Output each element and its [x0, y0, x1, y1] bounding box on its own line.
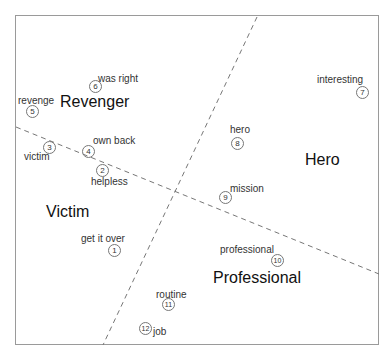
item-number-badge: 5 [26, 105, 39, 118]
divider-lines [0, 0, 392, 358]
item-number-badge: 1 [108, 244, 121, 257]
diagram-canvas: RevengerVictimHeroProfessional 1get it o… [0, 0, 392, 358]
item-word-label: mission [230, 184, 264, 194]
item-word-label: victim [24, 152, 50, 162]
item-number-badge: 10 [271, 254, 284, 267]
item-word-label: helpless [91, 177, 128, 187]
item-word-label: interesting [317, 75, 363, 85]
item-number-badge: 7 [356, 86, 369, 99]
item-word-label: professional [220, 245, 274, 255]
region-label: Professional [213, 270, 301, 286]
region-label: Hero [305, 152, 340, 168]
item-word-label: hero [230, 125, 250, 135]
item-word-label: job [153, 327, 166, 337]
item-number-badge: 4 [82, 145, 95, 158]
dashed-divider-line [16, 127, 379, 274]
region-label: Revenger [60, 94, 129, 110]
item-number-badge: 12 [139, 322, 152, 335]
item-word-label: revenge [18, 96, 54, 106]
item-word-label: own back [93, 136, 135, 146]
item-number-badge: 8 [231, 137, 244, 150]
item-word-label: get it over [81, 234, 125, 244]
item-word-label: was right [98, 74, 138, 84]
region-label: Victim [46, 204, 89, 220]
item-word-label: routine [156, 290, 187, 300]
